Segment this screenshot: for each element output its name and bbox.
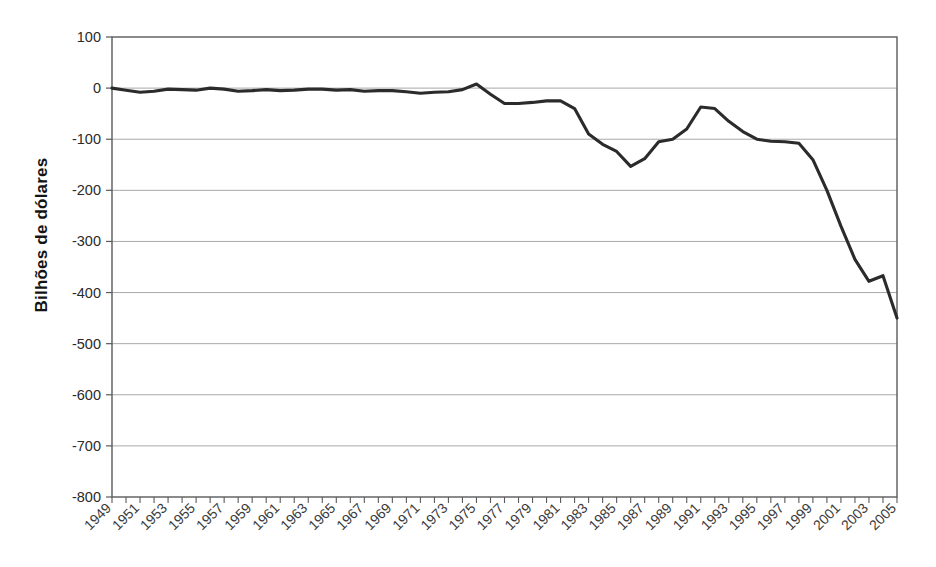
x-tick-label: 2001 bbox=[810, 500, 843, 533]
y-tick-label: -700 bbox=[72, 438, 101, 454]
y-tick-label: -600 bbox=[72, 387, 101, 403]
x-tick-label: 1959 bbox=[221, 500, 254, 533]
x-tick-label: 1989 bbox=[641, 500, 674, 533]
x-tick-label: 1967 bbox=[333, 500, 366, 533]
x-axis-ticks bbox=[112, 497, 897, 503]
y-tick-label: 100 bbox=[77, 29, 101, 45]
y-tick-label: -500 bbox=[72, 336, 101, 352]
y-tick-label: -100 bbox=[72, 131, 101, 147]
x-tick-label: 1973 bbox=[417, 500, 450, 533]
x-tick-label: 1991 bbox=[670, 500, 703, 533]
x-tick-label: 1969 bbox=[361, 500, 394, 533]
x-tick-label: 1983 bbox=[557, 500, 590, 533]
plot-frame bbox=[112, 37, 897, 497]
y-tick-label: -200 bbox=[72, 182, 101, 198]
x-axis-tick-labels: 1949195119531955195719591961196319651967… bbox=[81, 500, 899, 533]
x-tick-label: 1981 bbox=[529, 500, 562, 533]
y-axis-ticks: 1000-100-200-300-400-500-600-700-800 bbox=[72, 29, 112, 505]
x-tick-label: 1957 bbox=[193, 500, 226, 533]
y-tick-label: -800 bbox=[72, 489, 101, 505]
x-tick-label: 1977 bbox=[473, 500, 506, 533]
x-tick-label: 1975 bbox=[445, 500, 478, 533]
x-tick-label: 1961 bbox=[249, 500, 282, 533]
chart-svg: 1000-100-200-300-400-500-600-700-800 194… bbox=[0, 0, 936, 567]
x-tick-label: 1997 bbox=[754, 500, 787, 533]
x-tick-label: 1965 bbox=[305, 500, 338, 533]
y-tick-label: 0 bbox=[93, 80, 101, 96]
data-series-line bbox=[112, 84, 897, 318]
x-tick-label: 1963 bbox=[277, 500, 310, 533]
x-tick-label: 1971 bbox=[389, 500, 422, 533]
x-tick-label: 1999 bbox=[782, 500, 815, 533]
y-tick-label: -300 bbox=[72, 233, 101, 249]
x-tick-label: 1995 bbox=[726, 500, 759, 533]
x-tick-label: 2003 bbox=[838, 500, 871, 533]
x-tick-label: 1979 bbox=[501, 500, 534, 533]
x-tick-label: 2005 bbox=[866, 500, 899, 533]
x-tick-label: 1993 bbox=[698, 500, 731, 533]
x-tick-label: 1987 bbox=[613, 500, 646, 533]
chart-container: Bilhões de dólares 1000-100-200-300-400-… bbox=[0, 0, 936, 567]
x-tick-label: 1953 bbox=[137, 500, 170, 533]
y-tick-label: -400 bbox=[72, 285, 101, 301]
x-tick-label: 1985 bbox=[585, 500, 618, 533]
x-tick-label: 1955 bbox=[165, 500, 198, 533]
x-tick-label: 1951 bbox=[109, 500, 142, 533]
